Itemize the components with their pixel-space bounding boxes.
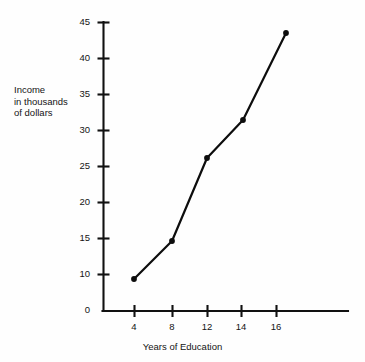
y-tick-label-10: 10 [72,269,90,279]
x-tick-label-12: 12 [202,322,213,332]
data-point [169,238,175,244]
y-axis-label: Income in thousands of dollars [14,84,68,119]
y-tick-label-15: 15 [72,233,90,243]
data-series-line [134,33,286,279]
y-tick-label-45: 45 [72,17,90,27]
y-tick-label-35: 35 [72,89,90,99]
data-point [283,30,289,36]
x-tick-label-8: 8 [169,322,174,332]
y-tick-label-0: 0 [72,305,90,315]
x-axis-label: Years of Education [0,341,365,352]
line-chart: 45 40 35 30 25 20 15 10 0 4 8 12 14 16 I… [0,0,365,362]
x-tick-label-16: 16 [271,322,282,332]
y-tick-label-40: 40 [72,53,90,63]
y-tick-label-30: 30 [72,125,90,135]
x-tick-label-14: 14 [236,322,247,332]
plot-area [0,0,365,362]
data-point [131,276,137,282]
y-tick-label-25: 25 [72,161,90,171]
y-axis-label-line-2: in thousands [14,96,68,108]
y-axis-label-line-3: of dollars [14,107,68,119]
y-axis-label-line-1: Income [14,84,68,96]
data-point [240,117,246,123]
data-point [204,155,210,161]
y-tick-label-20: 20 [72,197,90,207]
x-tick-label-4: 4 [131,322,136,332]
